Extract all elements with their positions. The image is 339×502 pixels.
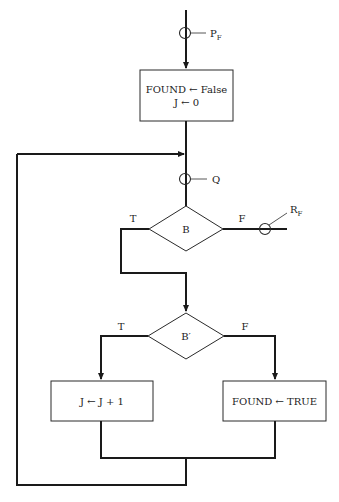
decision-b-prime-true-label: T	[118, 321, 125, 332]
decision-b-label: B	[182, 224, 189, 235]
init-box-line2: J ← 0	[173, 97, 199, 108]
probe-rf-label: RF	[290, 204, 303, 218]
init-box-line1: FOUND ← False	[146, 84, 228, 95]
decision-b-prime-label: B′	[181, 331, 191, 342]
decision-b-false-label: F	[239, 213, 246, 224]
found-box-text: FOUND ← TRUE	[232, 396, 317, 407]
decision-b-true-label: T	[130, 213, 137, 224]
b-prime-false-edge	[224, 336, 275, 379]
init-box	[140, 70, 233, 121]
probe-q-label: Q	[212, 174, 220, 185]
flowchart: PF FOUND ← False J ← 0 Q B T F RF B′ T F…	[0, 0, 339, 502]
increment-box-text: J ← J + 1	[79, 396, 124, 407]
merge-edge	[101, 421, 275, 458]
probe-pf-label: PF	[210, 28, 222, 42]
decision-b-prime-false-label: F	[242, 321, 249, 332]
probe-rf-leader	[269, 213, 287, 225]
b-prime-true-edge	[101, 336, 148, 379]
